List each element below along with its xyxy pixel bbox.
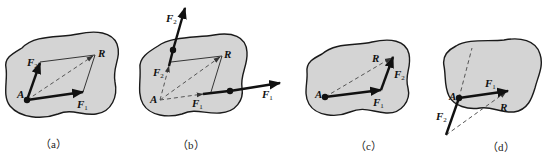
label-resultant-c: R xyxy=(371,52,379,64)
label-f2-ext-b: F2 xyxy=(165,12,177,26)
label-point-a: A xyxy=(16,88,24,100)
force-composition-figure: A F2 F1 R （a） A F2 F1 F2 F1 R （b） xyxy=(0,0,552,166)
point-a-dot xyxy=(24,97,30,103)
panel-c: A F1 F2 R （c） xyxy=(306,40,410,152)
caption-d: （d） xyxy=(487,141,515,153)
caption-b: （b） xyxy=(177,139,205,151)
panel-d: A F1 F2 R （d） xyxy=(435,39,541,153)
point-a-dot-c xyxy=(322,94,328,100)
f1-application-point-b xyxy=(227,88,233,94)
force-f2-arrow-d xyxy=(446,98,459,135)
label-resultant-b: R xyxy=(223,48,231,60)
rigid-body-a xyxy=(6,32,119,117)
label-resultant-d: R xyxy=(499,101,507,113)
caption-c: （c） xyxy=(355,140,382,152)
label-resultant-a: R xyxy=(97,47,105,59)
label-f1-ext-b: F1 xyxy=(261,88,273,102)
caption-a: （a） xyxy=(40,138,67,150)
panel-b: A F2 F1 F2 F1 R （b） xyxy=(140,8,280,151)
label-point-c: A xyxy=(314,88,322,100)
point-a-dot-d xyxy=(456,95,462,101)
label-point-d: A xyxy=(448,90,456,102)
f2-application-point-b xyxy=(170,47,176,53)
label-f2-d: F2 xyxy=(435,110,447,124)
label-point-b: A xyxy=(149,93,157,105)
panel-a: A F2 F1 R （a） xyxy=(6,32,119,150)
